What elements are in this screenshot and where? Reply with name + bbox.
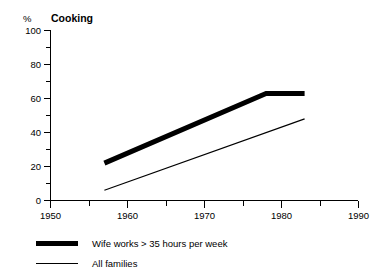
legend-label-all-families: All families xyxy=(92,258,138,269)
series-line-wife-works xyxy=(104,93,304,163)
y-axis-minor-ticks xyxy=(46,48,51,184)
y-axis-unit-label: % xyxy=(23,13,32,24)
y-tick-label-20: 20 xyxy=(30,161,41,172)
x-tick-label-1960: 1960 xyxy=(117,210,138,221)
chart-figure: Cooking % 0 20 40 60 80 100 xyxy=(0,0,382,273)
x-tick-label-1990: 1990 xyxy=(348,210,369,221)
x-tick-label-1950: 1950 xyxy=(40,210,61,221)
y-tick-label-40: 40 xyxy=(30,127,41,138)
x-tick-label-1970: 1970 xyxy=(194,210,215,221)
legend-label-wife-works: Wife works > 35 hours per week xyxy=(92,238,228,249)
y-tick-label-60: 60 xyxy=(30,93,41,104)
y-tick-label-100: 100 xyxy=(25,25,41,36)
x-tick-label-1980: 1980 xyxy=(271,210,292,221)
cooking-line-chart: Cooking % 0 20 40 60 80 100 xyxy=(0,0,382,273)
chart-legend: Wife works > 35 hours per week All famil… xyxy=(36,238,228,269)
x-axis-major-ticks xyxy=(51,201,359,209)
y-tick-label-0: 0 xyxy=(36,195,41,206)
page-title: Cooking xyxy=(51,12,93,24)
series-line-all-families xyxy=(104,119,304,190)
y-tick-label-80: 80 xyxy=(30,59,41,70)
